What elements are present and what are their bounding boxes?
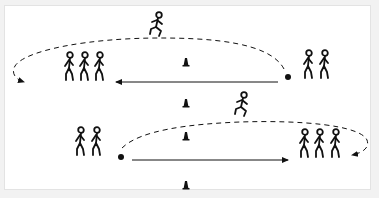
- cone-column: [183, 58, 190, 190]
- bottom-right-player-3: [331, 129, 339, 157]
- bottom-right-player-1: [300, 129, 308, 157]
- top-dashed-run-path: [13, 38, 284, 82]
- cone-icon: [183, 181, 190, 190]
- top-left-player-2: [80, 52, 88, 80]
- cone-icon: [183, 58, 190, 67]
- bottom-left-player-2: [92, 127, 100, 155]
- top-ball: [285, 74, 291, 80]
- cone-icon: [183, 99, 190, 108]
- drill-diagram: [0, 0, 379, 198]
- top-right-player-2: [320, 50, 328, 78]
- bottom-left-player-1: [76, 127, 84, 155]
- bottom-dashed-run-path: [122, 122, 368, 155]
- bottom-right-player-2: [315, 129, 323, 157]
- top-right-player-1: [304, 50, 312, 78]
- top-drill: [13, 12, 328, 82]
- bottom-drill: [76, 92, 368, 160]
- bottom-ball: [118, 154, 124, 160]
- top-runner-icon: [150, 12, 162, 36]
- top-left-player-3: [95, 52, 103, 80]
- cone-icon: [183, 132, 190, 141]
- bottom-runner-icon: [235, 92, 247, 116]
- top-left-player-1: [65, 52, 73, 80]
